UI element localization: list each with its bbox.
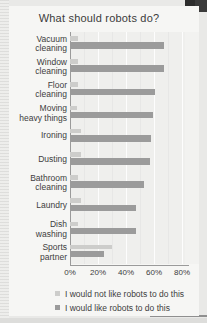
- category-label: Moving heavy things: [9, 104, 67, 123]
- bar-would-not-like: [70, 222, 78, 227]
- bar-would-like: [70, 65, 164, 72]
- x-axis-tick-labels: 0%20%40%60%80%: [9, 268, 199, 280]
- bar-row: Vacuum cleaning: [9, 32, 199, 55]
- bar-group: [70, 102, 189, 125]
- bar-would-like: [70, 112, 153, 119]
- bar-group: [70, 171, 189, 194]
- bar-would-like: [70, 251, 104, 258]
- bar-would-like: [70, 205, 136, 212]
- bar-row: Floor cleaning: [9, 78, 199, 101]
- bar-would-like: [70, 228, 136, 235]
- bar-group: [70, 125, 189, 148]
- legend-label: I would like robots to do this: [65, 303, 170, 313]
- bar-group: [70, 32, 189, 55]
- bar-row: Bathroom cleaning: [9, 171, 199, 194]
- legend-item[interactable]: I would like robots to do this: [55, 302, 199, 313]
- bar-group: [70, 78, 189, 101]
- x-axis-line: [70, 265, 189, 266]
- chart-legend: I would not like robots to do thisI woul…: [55, 288, 199, 316]
- chart-page: What should robots do? Vacuum cleaningWi…: [0, 0, 207, 323]
- x-tick-label: 80%: [169, 268, 195, 277]
- bar-row: Laundry: [9, 194, 199, 217]
- bar-group: [70, 55, 189, 78]
- x-tick-label: 60%: [141, 268, 167, 277]
- bar-would-like: [70, 158, 150, 165]
- category-label: Bathroom cleaning: [9, 173, 67, 192]
- bar-would-not-like: [70, 82, 78, 87]
- scan-edge-band: [0, 0, 9, 323]
- category-label: Ironing: [9, 132, 67, 142]
- category-label: Vacuum cleaning: [9, 34, 67, 53]
- bar-would-not-like: [70, 36, 78, 41]
- category-label: Dish washing: [9, 220, 67, 239]
- legend-swatch-icon: [55, 305, 60, 310]
- bar-row: Dish washing: [9, 218, 199, 241]
- x-tick-label: 40%: [113, 268, 139, 277]
- chart-title: What should robots do?: [9, 12, 189, 24]
- bar-would-not-like: [70, 129, 81, 134]
- bar-row: Ironing: [9, 125, 199, 148]
- legend-label: I would not like robots to do this: [65, 289, 184, 299]
- bar-rows: Vacuum cleaningWindow cleaningFloor clea…: [9, 32, 199, 264]
- category-label: Laundry: [9, 201, 67, 211]
- bar-would-not-like: [70, 59, 78, 64]
- category-label: Window cleaning: [9, 57, 67, 76]
- bar-row: Dusting: [9, 148, 199, 171]
- bar-group: [70, 148, 189, 171]
- legend-swatch-icon: [55, 291, 60, 296]
- bar-would-not-like: [70, 198, 81, 203]
- bar-row: Moving heavy things: [9, 102, 199, 125]
- bar-row: Window cleaning: [9, 55, 199, 78]
- bar-would-not-like: [70, 152, 81, 157]
- bar-would-like: [70, 42, 164, 49]
- category-label: Sports partner: [9, 243, 67, 262]
- chart-canvas: What should robots do? Vacuum cleaningWi…: [9, 6, 199, 316]
- bar-group: [70, 241, 189, 264]
- category-label: Floor cleaning: [9, 80, 67, 99]
- x-tick-label: 20%: [85, 268, 111, 277]
- bar-row: Sports partner: [9, 241, 199, 264]
- category-label: Dusting: [9, 155, 67, 165]
- bar-group: [70, 194, 189, 217]
- legend-item[interactable]: I would not like robots to do this: [55, 288, 199, 299]
- bar-would-like: [70, 181, 144, 188]
- bar-would-not-like: [70, 106, 77, 111]
- bar-would-not-like: [70, 175, 78, 180]
- x-tick-label: 0%: [57, 268, 83, 277]
- bar-would-like: [70, 89, 155, 96]
- scan-bottom-band: [0, 318, 207, 323]
- bar-group: [70, 218, 189, 241]
- bar-would-not-like: [70, 245, 112, 250]
- bar-would-like: [70, 135, 151, 142]
